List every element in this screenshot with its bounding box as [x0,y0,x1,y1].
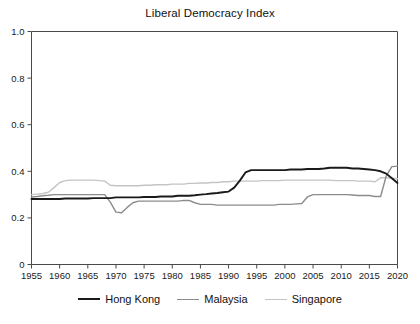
legend-entry-hong-kong[interactable]: Hong Kong [78,293,160,305]
legend-label: Malaysia [204,293,247,305]
x-axis-ticks: 1955196019651970197519801985199019952000… [21,265,408,282]
y-axis-ticks: 00.20.40.60.81.0 [11,26,31,270]
legend-label: Hong Kong [105,293,160,305]
svg-text:2020: 2020 [387,270,408,281]
svg-text:1990: 1990 [218,270,239,281]
svg-text:0: 0 [19,259,24,270]
svg-text:2015: 2015 [359,270,380,281]
series-line-singapore [32,178,398,195]
svg-text:0.2: 0.2 [11,212,24,223]
svg-text:0.4: 0.4 [11,166,24,177]
data-series-group [32,166,398,213]
svg-text:2010: 2010 [331,270,352,281]
legend-swatch-icon [78,298,100,300]
chart-legend: Hong KongMalaysiaSingapore [0,293,420,305]
svg-text:1970: 1970 [105,270,126,281]
svg-text:1975: 1975 [134,270,155,281]
legend-entry-singapore[interactable]: Singapore [265,293,342,305]
svg-text:1955: 1955 [21,270,42,281]
svg-text:1960: 1960 [49,270,70,281]
chart-plot-area: 00.20.40.60.81.0 19551960196519701975198… [0,0,420,324]
legend-swatch-icon [177,299,199,300]
svg-text:0.8: 0.8 [11,73,24,84]
svg-text:1965: 1965 [77,270,98,281]
svg-text:1995: 1995 [246,270,267,281]
legend-swatch-icon [265,299,287,300]
legend-entry-malaysia[interactable]: Malaysia [177,293,247,305]
svg-text:1980: 1980 [162,270,183,281]
svg-text:2000: 2000 [274,270,295,281]
svg-text:2005: 2005 [302,270,323,281]
series-line-malaysia [32,166,398,213]
svg-text:1985: 1985 [190,270,211,281]
svg-text:1.0: 1.0 [11,26,24,37]
chart-container: Liberal Democracy Index 00.20.40.60.81.0… [0,0,420,324]
axis-frame [32,32,398,265]
source-note [0,316,420,324]
legend-label: Singapore [292,293,342,305]
svg-text:0.6: 0.6 [11,119,24,130]
